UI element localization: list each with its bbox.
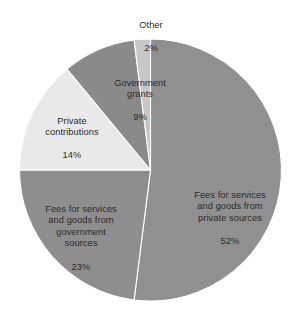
pie-chart-canvas <box>0 0 301 315</box>
pie-slice-group <box>20 39 282 301</box>
pie-chart: Fees for services and goods from private… <box>0 0 301 315</box>
pie-slice-private-sources <box>134 39 281 301</box>
pie-slice-government-sources <box>20 170 151 300</box>
